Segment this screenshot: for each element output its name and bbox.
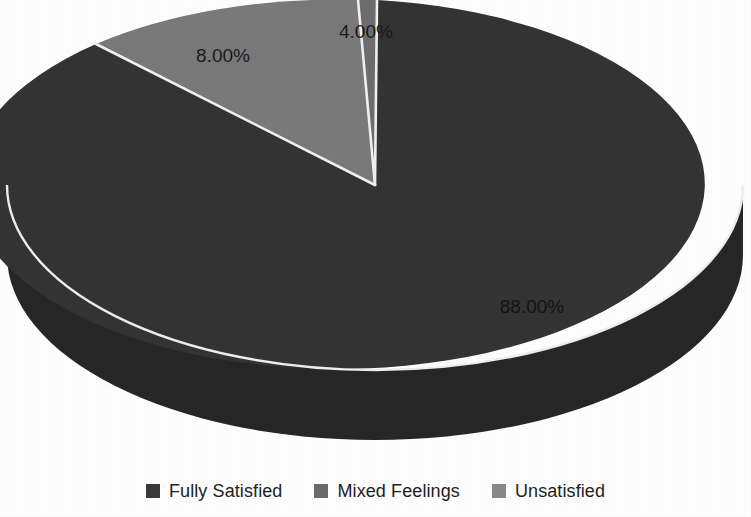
legend-swatch-fully-satisfied — [146, 484, 160, 498]
legend-item-mixed-feelings[interactable]: Mixed Feelings — [314, 481, 459, 502]
slice-label-fully-satisfied: 88.00% — [500, 296, 565, 317]
slice-label-unsatisfied: 4.00% — [339, 21, 393, 42]
legend-label-mixed-feelings: Mixed Feelings — [337, 481, 459, 502]
pie-top-face — [0, 0, 705, 369]
legend-item-fully-satisfied[interactable]: Fully Satisfied — [146, 481, 283, 502]
legend-label-fully-satisfied: Fully Satisfied — [169, 481, 283, 502]
slice-label-mixed-feelings: 8.00% — [196, 45, 250, 66]
pie-chart: 88.00% 8.00% 4.00% — [0, 0, 751, 460]
legend-item-unsatisfied[interactable]: Unsatisfied — [492, 481, 605, 502]
legend-label-unsatisfied: Unsatisfied — [515, 481, 605, 502]
legend-swatch-unsatisfied — [492, 484, 506, 498]
chart-legend: Fully Satisfied Mixed Feelings Unsatisfi… — [0, 470, 751, 512]
pie-chart-svg: 88.00% 8.00% 4.00% — [0, 0, 751, 460]
legend-swatch-mixed-feelings — [314, 484, 328, 498]
